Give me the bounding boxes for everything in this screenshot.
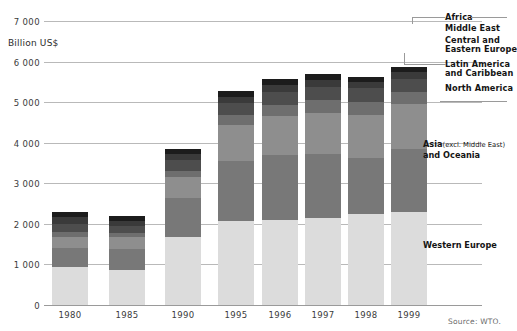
bar-1998 <box>348 77 384 306</box>
bar-segment-1998-asia-excl-middle-east-and-oceania <box>348 158 384 214</box>
bar-segment-1999-latin-america-and-caribbean <box>391 92 427 105</box>
y-tick-6000: 6 000 <box>14 58 40 68</box>
legend-label-latin-america-line2: and Caribbean <box>445 68 513 78</box>
bar-segment-1997-latin-america-and-caribbean <box>305 100 341 113</box>
y-tick-1000: 1 000 <box>14 260 40 270</box>
gridline-6000 <box>44 62 482 63</box>
bar-1990 <box>165 149 201 306</box>
bar-1985 <box>109 216 145 306</box>
bar-segment-1996-central-and-eastern-europe <box>262 92 298 105</box>
bar-segment-1985-western-europe <box>109 270 145 307</box>
bar-segment-1996-western-europe <box>262 220 298 306</box>
bar-segment-1997-western-europe <box>305 218 341 306</box>
bar-segment-1997-asia-excl-middle-east-and-oceania <box>305 154 341 218</box>
bar-segment-1980-north-america <box>52 237 88 248</box>
bar-segment-1998-western-europe <box>348 214 384 306</box>
y-tick-3000: 3 000 <box>14 179 40 189</box>
bar-segment-1998-latin-america-and-caribbean <box>348 102 384 115</box>
legend-item-central-eastern-europe: Central and Eastern Europe <box>445 36 517 55</box>
bar-segment-1997-north-america <box>305 113 341 154</box>
y-tick-2000: 2 000 <box>14 220 40 230</box>
leader-line-africa-left <box>412 17 445 18</box>
bar-segment-1999-north-america <box>391 104 427 149</box>
bar-segment-1980-asia-excl-middle-east-and-oceania <box>52 248 88 267</box>
x-tick-1999: 1999 <box>391 310 427 320</box>
x-axis-line <box>44 305 482 306</box>
bar-segment-1997-middle-east <box>305 80 341 87</box>
leader-line-latin-america-vertical <box>404 53 405 64</box>
x-tick-1996: 1996 <box>262 310 298 320</box>
legend: Africa Middle East Central and Eastern E… <box>440 0 507 331</box>
bar-1980 <box>52 212 88 306</box>
bar-1995 <box>218 91 254 306</box>
bar-segment-1985-north-america <box>109 237 145 249</box>
bar-segment-1980-middle-east <box>52 217 88 224</box>
x-tick-1985: 1985 <box>109 310 145 320</box>
bar-segment-1990-north-america <box>165 177 201 198</box>
bar-segment-1999-western-europe <box>391 212 427 306</box>
legend-label-north-america: North America <box>445 83 513 93</box>
bar-1996 <box>262 79 298 306</box>
bar-segment-1999-asia-excl-middle-east-and-oceania <box>391 149 427 212</box>
bar-segment-1985-central-and-eastern-europe <box>109 226 145 233</box>
x-tick-1990: 1990 <box>165 310 201 320</box>
leader-line-latin-america-left <box>404 64 446 65</box>
x-tick-1998: 1998 <box>348 310 384 320</box>
leader-line-africa-right <box>471 17 507 18</box>
x-tick-1995: 1995 <box>218 310 254 320</box>
bar-segment-1995-central-and-eastern-europe <box>218 103 254 115</box>
leader-line-africa-vertical <box>412 17 413 24</box>
y-tick-5000: 5 000 <box>14 98 40 108</box>
bar-segment-1990-central-and-eastern-europe <box>165 160 201 171</box>
bar-segment-1980-central-and-eastern-europe <box>52 224 88 232</box>
bar-segment-1990-western-europe <box>165 237 201 306</box>
leader-line-north-america-under <box>440 101 507 102</box>
bar-segment-1990-asia-excl-middle-east-and-oceania <box>165 198 201 237</box>
gridline-7000 <box>44 21 482 22</box>
legend-label-middle-east: Middle East <box>445 23 500 33</box>
legend-item-north-america: North America <box>445 84 513 93</box>
bar-segment-1996-latin-america-and-caribbean <box>262 105 298 116</box>
bar-segment-1995-latin-america-and-caribbean <box>218 115 254 125</box>
y-tick-0: 0 <box>34 301 40 311</box>
bar-segment-1980-western-europe <box>52 267 88 306</box>
legend-label-africa: Africa <box>445 12 473 22</box>
bar-segment-1995-north-america <box>218 125 254 161</box>
legend-label-central-eastern-europe-line2: Eastern Europe <box>445 44 517 54</box>
x-tick-1980: 1980 <box>52 310 88 320</box>
bar-segment-1998-north-america <box>348 115 384 158</box>
bar-segment-1995-asia-excl-middle-east-and-oceania <box>218 161 254 221</box>
bar-segment-1996-north-america <box>262 116 298 155</box>
bar-segment-1998-central-and-eastern-europe <box>348 88 384 102</box>
bar-segment-1985-asia-excl-middle-east-and-oceania <box>109 249 145 269</box>
bar-segment-1999-central-and-eastern-europe <box>391 79 427 92</box>
legend-item-middle-east: Middle East <box>445 24 500 33</box>
y-axis-tick-labels: 7 000 6 000 5 000 4 000 3 000 2 000 1 00… <box>0 22 40 306</box>
source-note: Source: WTO. <box>448 317 501 326</box>
y-tick-4000: 4 000 <box>14 139 40 149</box>
bar-segment-1997-central-and-eastern-europe <box>305 87 341 100</box>
legend-item-latin-america: Latin America and Caribbean <box>445 60 513 79</box>
legend-item-africa: Africa <box>445 13 473 22</box>
bar-segment-1996-asia-excl-middle-east-and-oceania <box>262 155 298 220</box>
bar-segment-1996-middle-east <box>262 85 298 92</box>
x-tick-1997: 1997 <box>305 310 341 320</box>
y-tick-7000: 7 000 <box>14 17 40 27</box>
bar-1997 <box>305 74 341 306</box>
bar-1999 <box>391 67 427 306</box>
bar-segment-1995-western-europe <box>218 221 254 306</box>
